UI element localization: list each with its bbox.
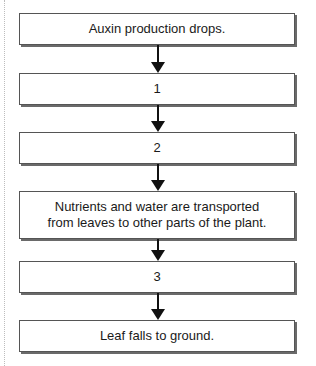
step-label-line-1: Nutrients and water are transported	[55, 199, 260, 215]
step-box-auxin-drops: Auxin production drops.	[19, 13, 295, 45]
left-margin-rule	[4, 0, 5, 366]
step-label: Auxin production drops.	[89, 21, 226, 37]
step-box-blank-3: 3	[19, 261, 295, 293]
step-label: Leaf falls to ground.	[100, 328, 214, 344]
step-box-leaf-falls: Leaf falls to ground.	[19, 320, 295, 352]
step-label: 2	[153, 140, 160, 156]
step-box-nutrients-transported: Nutrients and water are transported from…	[19, 191, 295, 239]
step-label-line-2: from leaves to other parts of the plant.	[48, 215, 267, 231]
step-label: 1	[153, 81, 160, 97]
step-label: 3	[153, 269, 160, 285]
step-box-blank-1: 1	[19, 73, 295, 105]
step-box-blank-2: 2	[19, 132, 295, 164]
